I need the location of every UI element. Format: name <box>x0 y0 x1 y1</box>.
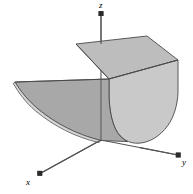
surface-plot-figure: z y x <box>0 0 193 194</box>
parabolic-cylinder-surface <box>13 36 178 143</box>
y-axis-arrow-icon-front <box>176 153 181 158</box>
y-axis-label: y <box>182 158 186 167</box>
x-axis-label: x <box>26 178 30 187</box>
x-axis-arrow-icon-front <box>37 171 42 176</box>
z-axis-arrow-icon-front <box>99 11 104 16</box>
surface-plot-canvas <box>0 0 193 194</box>
y-axis-outer-segment <box>140 148 178 155</box>
z-axis-label: z <box>99 1 103 10</box>
x-axis-outer-segment <box>41 140 101 173</box>
